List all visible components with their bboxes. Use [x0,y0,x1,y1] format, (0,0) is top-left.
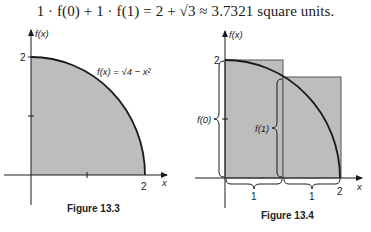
brace-f1-label: f(1) [255,123,269,134]
figure-13-3-caption: Figure 13.3 [67,203,120,214]
width-label-1: 1 [251,191,257,202]
y-axis-label: f(x) [229,29,243,40]
rectangle-f1 [283,77,341,178]
y-tick-label-2: 2 [20,52,26,63]
brace-width-1 [226,179,282,189]
brace-width-2 [284,179,340,189]
figure-13-3: f(x) 2 2 x f(x) = √4 − x² [4,28,168,205]
x-tick-label-2: 2 [337,186,343,197]
figure-13-4: f(x) 2 f(0) f(1) 1 1 2 x [195,29,363,208]
x-tick-label-2: 2 [141,181,147,192]
function-label: f(x) = √4 − x² [97,66,152,77]
width-label-2: 1 [309,191,315,202]
y-tick-label-2: 2 [214,55,220,66]
y-axis-label: f(x) [35,28,49,39]
figure-13-4-caption: Figure 13.4 [261,210,314,221]
x-axis-label: x [356,181,363,192]
rectangle-f0 [225,60,283,178]
brace-f0-label: f(0) [197,114,211,125]
x-axis-label: x [161,177,168,188]
figures-canvas: f(x) 2 2 x f(x) = √4 − x² f(x) 2 f(0) f(… [0,0,371,232]
